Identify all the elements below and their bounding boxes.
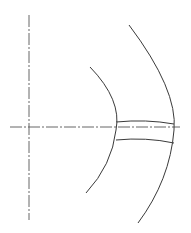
technical-drawing [0,0,191,233]
band-top-edge [116,121,174,124]
band-bottom-edge [116,139,174,143]
outer-arc [129,25,174,223]
inner-arc [86,67,117,193]
